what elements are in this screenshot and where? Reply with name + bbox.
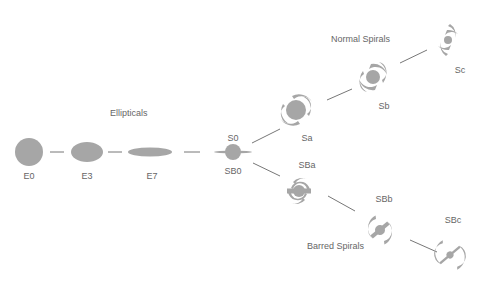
galaxy-sa-icon	[280, 94, 312, 125]
label-sbc: SBc	[445, 215, 462, 225]
galaxy-e0-icon	[15, 138, 43, 166]
label-e3: E3	[81, 171, 92, 181]
connector-s0-sa	[252, 129, 280, 143]
galaxy-sb-icon	[359, 62, 387, 92]
galaxy-sba-icon	[287, 178, 311, 204]
galaxy-sbc-icon	[429, 233, 472, 276]
group-label-normal-spirals: Normal Spirals	[331, 34, 390, 44]
label-sb0: SB0	[224, 166, 241, 176]
galaxy-s0-icon	[214, 144, 252, 160]
label-sc: Sc	[455, 65, 466, 75]
label-sb: Sb	[378, 101, 389, 111]
connector-sba-sbb	[328, 196, 355, 211]
group-label-barred-spirals: Barred Spirals	[307, 241, 364, 251]
connector-sa-sb	[327, 89, 352, 100]
label-sbb: SBb	[375, 194, 392, 204]
label-s0: S0	[227, 133, 238, 143]
label-e7: E7	[146, 171, 157, 181]
galaxy-e7-icon	[128, 148, 172, 157]
galaxy-sbb-icon	[362, 212, 398, 249]
connector-sb-sc	[400, 50, 427, 63]
label-sa: Sa	[301, 133, 312, 143]
label-sba: SBa	[298, 160, 315, 170]
tuning-fork-diagram	[0, 0, 481, 291]
connector-sbb-sbc	[410, 240, 437, 252]
label-e0: E0	[23, 171, 34, 181]
galaxy-sc-icon	[438, 24, 458, 56]
connector-sb0-sba	[253, 163, 280, 176]
galaxy-e3-icon	[71, 142, 103, 162]
group-label-ellipticals: Ellipticals	[110, 108, 148, 118]
